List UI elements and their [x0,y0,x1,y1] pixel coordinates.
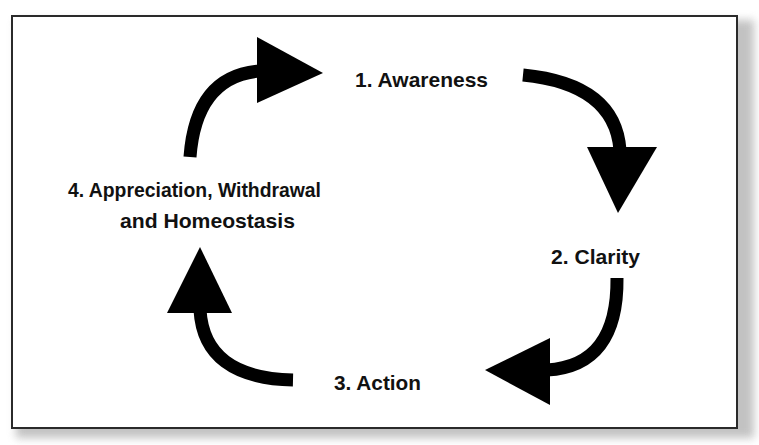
stage-3-label: 3. Action [334,371,421,394]
stage-2-label: 2. Clarity [551,245,640,268]
curved-arrow-right-icon [190,37,323,157]
curved-arrow-up-icon [167,247,293,380]
diagram-canvas: 1. Awareness 2. Clarity 3. Action 4. App… [0,0,759,445]
stage-4-label-line1: 4. Appreciation, Withdrawal [68,178,321,201]
stage-4-label-line2: and Homeostasis [120,209,295,232]
stage-1-label: 1. Awareness [355,68,488,91]
cycle-diagram: 1. Awareness 2. Clarity 3. Action 4. App… [0,0,759,445]
curved-arrow-down-icon [523,75,657,213]
curved-arrow-left-icon [485,278,617,405]
